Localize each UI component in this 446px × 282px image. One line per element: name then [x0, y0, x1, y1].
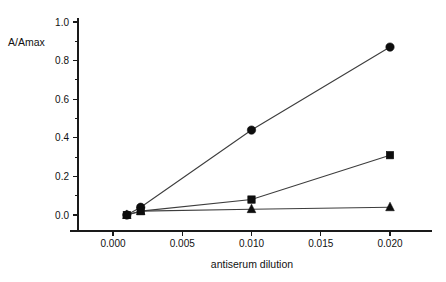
data-point-square	[386, 151, 393, 158]
x-tick-label: 0.005	[170, 238, 195, 249]
y-tick-label: 0.0	[55, 210, 69, 221]
series-line-square	[127, 155, 390, 215]
y-tick-label: 1.0	[55, 17, 69, 28]
y-tick-label: 0.4	[55, 132, 69, 143]
y-tick-label: 0.2	[55, 171, 69, 182]
x-tick-label: 0.015	[308, 238, 333, 249]
x-axis-title: antiserum dilution	[211, 258, 293, 270]
x-tick-label: 0.020	[377, 238, 402, 249]
data-point-triangle	[247, 204, 256, 213]
x-axis-tick-labels: 0.0000.0050.0100.0150.020	[100, 238, 402, 249]
series-line-circle	[127, 47, 390, 215]
data-point-triangle	[386, 202, 395, 211]
data-point-circle	[247, 126, 255, 134]
y-axis-title: A/Amax	[8, 36, 46, 48]
series-lines-group	[127, 47, 390, 215]
chart-figure: 0.00.20.40.60.81.0 0.0000.0050.0100.0150…	[0, 0, 446, 282]
chart-plot-area: 0.00.20.40.60.81.0 0.0000.0050.0100.0150…	[0, 0, 446, 282]
x-tick-label: 0.010	[239, 238, 264, 249]
y-tick-label: 0.8	[55, 55, 69, 66]
data-point-square	[248, 196, 255, 203]
x-axis-major-ticks	[113, 231, 390, 236]
y-tick-label: 0.6	[55, 94, 69, 105]
data-point-circle	[386, 43, 394, 51]
x-tick-label: 0.000	[100, 238, 125, 249]
y-axis-tick-labels: 0.00.20.40.60.81.0	[55, 17, 69, 221]
